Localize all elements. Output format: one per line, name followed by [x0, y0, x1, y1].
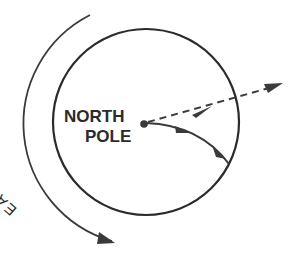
intended-path-dashed-arrow [148, 86, 276, 122]
rotation-label: EARTH'S ROTATION [0, 44, 19, 219]
deflected-path-end-arrowhead-icon [212, 145, 226, 159]
pole-label-pole: POLE [85, 127, 131, 146]
coriolis-diagram: EARTH'S ROTATION NORTH POLE [0, 0, 301, 260]
rotation-arrowhead-icon [97, 232, 115, 244]
pole-label-north: NORTH [64, 107, 124, 126]
intended-path-end-arrowhead-icon [264, 83, 283, 93]
deflected-path-curved-arrow [146, 123, 229, 164]
